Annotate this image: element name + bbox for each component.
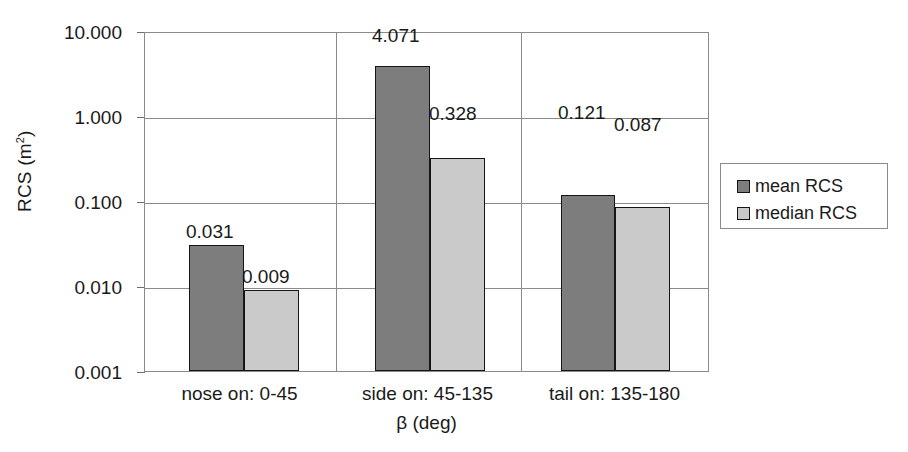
- bar-value-mean-tail-on: 0.121: [558, 103, 606, 122]
- bar-value-mean-nose-on: 0.031: [186, 222, 234, 241]
- category-separator-2: [521, 33, 522, 371]
- y-tick-label-0p01: 0.010: [14, 278, 122, 297]
- bar-mean-nose-on: [189, 245, 244, 371]
- legend: mean RCS median RCS: [720, 163, 888, 229]
- y-tick-mark-0p001: [137, 372, 145, 373]
- x-category-label-side-on: side on: 45-135: [335, 384, 520, 404]
- bar-value-median-side-on: 0.328: [429, 104, 477, 123]
- plot-area: [144, 32, 709, 372]
- bar-mean-tail-on: [561, 195, 615, 371]
- y-tick-label-10: 10.000: [14, 23, 122, 42]
- y-tick-label-0p001: 0.001: [14, 363, 122, 382]
- x-category-label-tail-on: tail on: 135-180: [520, 384, 709, 404]
- rcs-bar-chart: RCS (m2) 10.000 1.000 0.100 0.010 0.001 …: [0, 0, 908, 452]
- legend-label-mean-rcs: mean RCS: [755, 177, 843, 195]
- x-axis-title: β (deg): [144, 412, 709, 434]
- y-axis-title-superscript: 2: [14, 137, 26, 143]
- y-axis-title-close-paren: ): [14, 130, 35, 137]
- x-category-label-nose-on: nose on: 0-45: [144, 384, 335, 404]
- legend-item-median-rcs[interactable]: median RCS: [737, 204, 857, 222]
- bar-median-tail-on: [615, 207, 670, 371]
- y-tick-label-0p1: 0.100: [14, 193, 122, 212]
- category-separator-1: [336, 33, 337, 371]
- bar-median-nose-on: [244, 290, 299, 371]
- bar-median-side-on: [430, 158, 485, 371]
- legend-swatch-median-icon: [737, 207, 750, 220]
- legend-swatch-mean-icon: [737, 180, 750, 193]
- bar-value-median-nose-on: 0.009: [242, 267, 290, 286]
- y-tick-label-1: 1.000: [14, 108, 122, 127]
- bar-value-median-tail-on: 0.087: [614, 115, 662, 134]
- bar-mean-side-on: [375, 66, 430, 371]
- legend-item-mean-rcs[interactable]: mean RCS: [737, 177, 843, 195]
- bar-value-mean-side-on: 4.071: [372, 26, 420, 45]
- legend-label-median-rcs: median RCS: [755, 204, 857, 222]
